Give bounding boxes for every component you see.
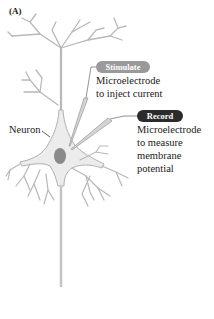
stimulate-badge: Stimulate — [96, 61, 150, 73]
record-line-2: to measure — [137, 136, 201, 149]
nucleus — [54, 148, 66, 164]
stimulate-line-2: to inject current — [96, 87, 162, 100]
stimulate-description: Microelectrode to inject current — [96, 74, 162, 100]
record-line-1: Microelectrode — [137, 123, 201, 136]
record-electrode — [71, 116, 137, 150]
neuron-leader-line — [42, 131, 50, 137]
record-line-4: potential — [137, 162, 201, 175]
record-badge: Record — [137, 110, 183, 122]
soma — [20, 110, 104, 186]
record-description: Microelectrode to measure membrane poten… — [137, 123, 201, 175]
record-line-3: membrane — [137, 149, 201, 162]
neuron-label: Neuron — [9, 124, 41, 135]
stimulate-line-1: Microelectrode — [96, 74, 162, 87]
